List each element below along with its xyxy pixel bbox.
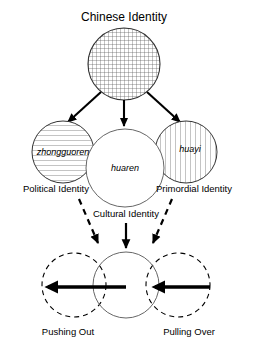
caption-pushing-out: Pushing Out — [42, 326, 95, 337]
identity-diagram: Chinese Identity zhongguoren huaren huay… — [0, 0, 253, 348]
node-bottom-center — [93, 252, 159, 318]
diagram-title: Chinese Identity — [81, 10, 167, 24]
connector-top-to-political — [68, 92, 101, 122]
label-huaren: huaren — [111, 163, 139, 173]
label-zhongguoren: zhongguoren — [36, 147, 90, 157]
caption-political-identity: Political Identity — [23, 183, 89, 194]
connector-political-to-pushing-out — [79, 199, 98, 243]
caption-pulling-over: Pulling Over — [163, 326, 215, 337]
caption-cultural-identity: Cultural Identity — [93, 208, 159, 219]
diagram-canvas: Chinese Identity zhongguoren huaren huay… — [0, 0, 253, 348]
caption-primordial-identity: Primordial Identity — [156, 183, 232, 194]
node-pulling-over — [146, 253, 210, 317]
node-chinese-identity — [88, 28, 160, 100]
connector-primordial-to-pulling-over — [153, 199, 172, 243]
connector-top-to-primordial — [147, 92, 180, 122]
label-huayi: huayi — [179, 144, 202, 154]
node-pushing-out — [42, 253, 106, 317]
